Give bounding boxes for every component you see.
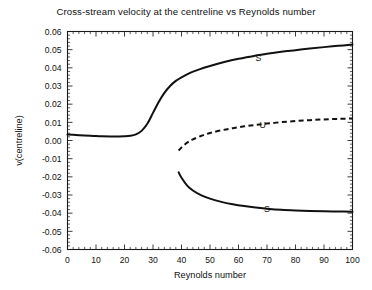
x-tick-label: 50	[205, 255, 215, 265]
y-tick-label: -0.02	[42, 172, 62, 182]
data-curves	[68, 45, 353, 212]
x-tick-label: 30	[148, 255, 158, 265]
curve-annotations: SUS	[256, 53, 271, 214]
y-tick-label: -0.04	[42, 208, 62, 218]
chart-figure: Cross-stream velocity at the centreline …	[0, 0, 372, 290]
x-tick-label: 60	[234, 255, 244, 265]
y-tick-label: 0.05	[45, 45, 62, 55]
x-axis-title: Reynolds number	[174, 270, 246, 280]
y-tick-label: -0.01	[42, 154, 62, 164]
y-tick-label: 0.00	[45, 136, 62, 146]
branch-label-lower-stable-branch: S	[264, 204, 270, 214]
y-tick-label: 0.06	[45, 27, 62, 37]
x-tick-label: 20	[120, 255, 130, 265]
axes	[68, 32, 353, 250]
y-axis-title: v(centreline)	[14, 115, 24, 166]
x-tick-label: 70	[262, 255, 272, 265]
x-tick-label: 40	[177, 255, 187, 265]
x-tick-label: 80	[291, 255, 301, 265]
x-tick-label: 10	[91, 255, 101, 265]
curve-upper-stable-branch	[68, 45, 353, 137]
axis-ticks	[68, 32, 353, 250]
y-tick-label: 0.04	[45, 63, 62, 73]
plot-area: 01020304050607080901000.060.050.040.030.…	[0, 0, 372, 290]
branch-label-unstable-branch: U	[260, 120, 266, 130]
x-tick-label: 90	[319, 255, 329, 265]
y-tick-label: -0.05	[42, 227, 62, 237]
y-tick-label: -0.03	[42, 190, 62, 200]
y-tick-label: -0.06	[42, 245, 62, 255]
y-tick-label: 0.01	[45, 118, 62, 128]
x-tick-label: 100	[345, 255, 360, 265]
y-tick-label: 0.02	[45, 99, 62, 109]
axis-tick-labels: 01020304050607080901000.060.050.040.030.…	[42, 27, 360, 265]
y-tick-label: 0.03	[45, 81, 62, 91]
plot-frame	[68, 32, 353, 250]
x-tick-label: 0	[65, 255, 70, 265]
branch-label-upper-stable-branch: S	[256, 53, 262, 63]
